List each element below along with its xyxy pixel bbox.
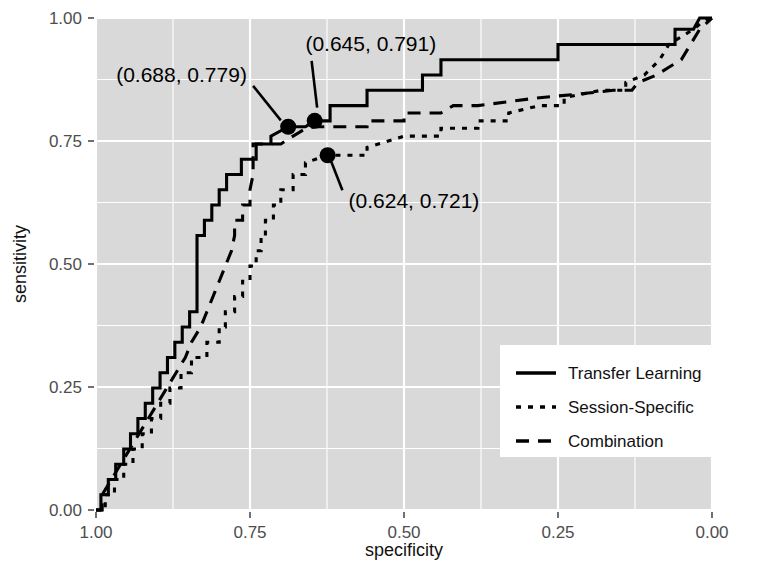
optimal-threshold-point [280,119,296,135]
x-axis-tick-label: 1.00 [79,523,112,542]
y-axis-tick-label: 0.75 [49,132,82,151]
x-axis-title: specificity [365,540,443,560]
x-axis-tick-label: 0.00 [695,523,728,542]
annotation-label: (0.624, 0.721) [349,189,480,212]
y-axis-tick-label: 0.50 [49,255,82,274]
y-axis-tick-label: 0.25 [49,378,82,397]
legend-item-label: Combination [568,432,663,451]
legend-item-label: Session-Specific [568,398,694,417]
chart-legend: Transfer LearningSession-SpecificCombina… [500,345,712,457]
x-axis-tick-label: 0.25 [541,523,574,542]
legend-item-label: Transfer Learning [568,364,702,383]
annotation-label: (0.645, 0.791) [305,32,436,55]
y-axis-tick-label: 1.00 [49,9,82,28]
annotation-label: (0.688, 0.779) [116,63,247,86]
roc-curve-chart: (0.688, 0.779)(0.645, 0.791)(0.624, 0.72… [0,0,758,586]
y-axis-title: sensitivity [10,225,30,303]
x-axis-tick-label: 0.75 [233,523,266,542]
y-axis-tick-label: 0.00 [49,501,82,520]
optimal-threshold-point [307,113,323,129]
optimal-threshold-point [320,147,336,163]
